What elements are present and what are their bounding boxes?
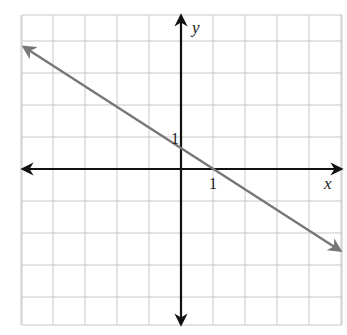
x-tick-label-1: 1: [209, 175, 217, 192]
x-axis-label: x: [323, 174, 332, 193]
coordinate-plane: y x 1 1: [0, 0, 347, 335]
y-tick-label-1: 1: [171, 130, 179, 147]
y-axis-label: y: [190, 18, 200, 37]
